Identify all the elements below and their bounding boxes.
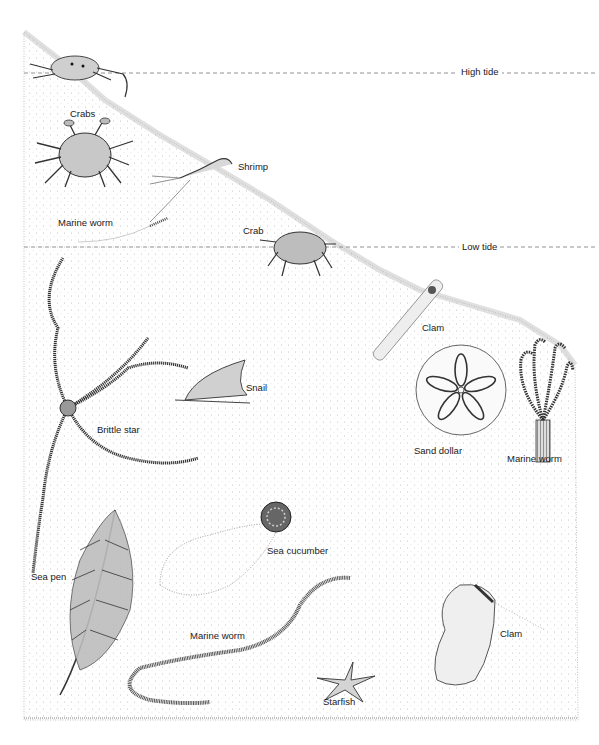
label-clam-upper: Clam [422,323,444,333]
label-snail: Snail [246,383,267,393]
low-tide-label: Low tide [459,242,500,252]
label-shrimp: Shrimp [238,162,268,172]
label-crab: Crab [243,226,264,236]
label-brittle-star: Brittle star [97,425,140,435]
sand-dollar-icon [416,345,506,435]
label-sea-pen: Sea pen [31,572,66,582]
intertidal-diagram: High tide Low tide Crabs Shrimp Marine w… [0,0,599,745]
high-tide-label: High tide [458,67,502,77]
label-starfish: Starfish [323,697,355,707]
label-marine-worm-upper: Marine worm [58,218,113,228]
label-marine-worm-lower: Marine worm [190,631,245,641]
label-clam-lower: Clam [500,629,522,639]
label-sand-dollar: Sand dollar [414,446,462,456]
label-crabs: Crabs [70,109,95,119]
label-sea-cucumber: Sea cucumber [267,546,328,556]
label-marine-worm-tube: Marine worm [507,454,562,464]
